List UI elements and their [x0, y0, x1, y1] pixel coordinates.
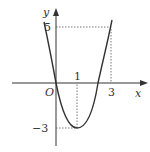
y-axis-label: y: [42, 6, 50, 19]
x-axis-label: x: [135, 87, 142, 100]
guide-y5: [56, 27, 111, 83]
tick-label-y5: 5: [44, 21, 51, 34]
parabola-graph: y x O 1 3 5 −3: [0, 0, 150, 152]
x-axis-arrow-icon: [140, 80, 148, 86]
tick-label-x1: 1: [74, 70, 81, 83]
y-axis-arrow-icon: [53, 8, 59, 16]
tick-label-x3: 3: [108, 86, 115, 99]
guide-vertex: [56, 83, 77, 128]
origin-label: O: [45, 86, 54, 99]
tick-label-yneg3: −3: [32, 122, 48, 135]
